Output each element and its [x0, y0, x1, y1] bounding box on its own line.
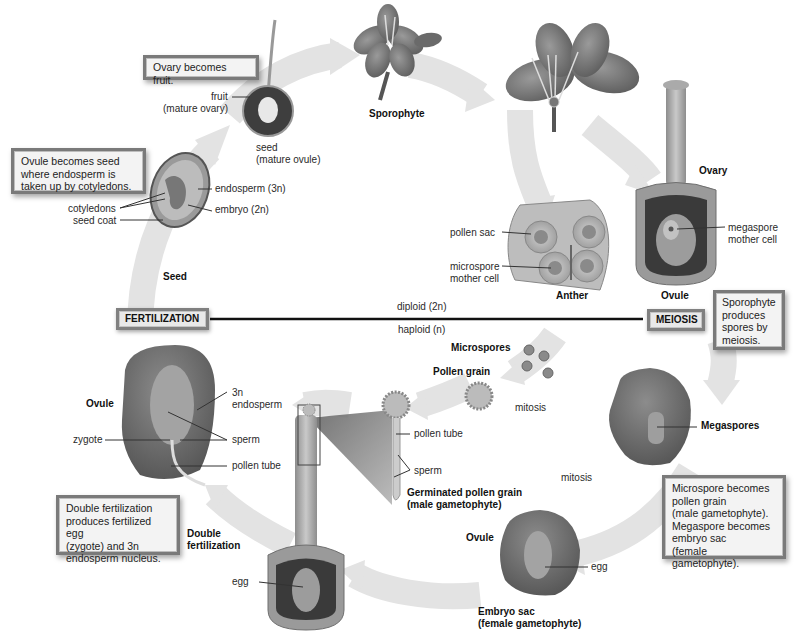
label-ovule-top: Ovule [661, 290, 689, 302]
label-ovary: Ovary [699, 165, 727, 177]
label-mitosis-1: mitosis [515, 402, 546, 414]
label-pollen-sac: pollen sac [450, 227, 495, 239]
ovary-illustration [636, 80, 716, 285]
pollen-grain-illustration [466, 383, 492, 409]
callout-line: taken up by cotyledons. [21, 180, 136, 193]
callout-line: Microspore becomes [672, 482, 776, 495]
label-anther: Anther [556, 290, 588, 302]
callout-line: (female gametophyte). [672, 545, 776, 570]
label-3n-endosperm: endosperm [232, 399, 282, 411]
label-microspores: Microspores [451, 342, 510, 354]
label-microspore-mother-cell-2: mother cell [450, 273, 499, 285]
callout-sporophyte-meiosis: Sporophyte produces spores by meiosis. [713, 290, 785, 350]
anther-illustration [508, 200, 609, 290]
label-embryo-sac-1: Embryo sac [478, 606, 535, 618]
callout-line: produces fertilized egg [66, 515, 170, 540]
callout-line: (zygote) and 3n [66, 540, 170, 553]
label-mature-ovule: (mature ovule) [256, 154, 320, 166]
label-pollen-tube-left: pollen tube [232, 460, 281, 472]
label-seed-coat: seed coat [73, 215, 116, 227]
callout-ovule-becomes-seed: Ovule becomes seed where endosperm is ta… [11, 148, 146, 194]
embryo-sac-ovule-illustration [500, 510, 580, 595]
label-embryo-2n: embryo (2n) [215, 204, 269, 216]
label-sperm-left: sperm [232, 434, 260, 446]
callout-line: produces [722, 309, 776, 322]
label-endosperm-3n: endosperm (3n) [215, 183, 286, 195]
diploid-label: diploid (2n) [397, 301, 446, 313]
label-sporophyte: Sporophyte [369, 108, 425, 120]
callout-line: Megaspore becomes [672, 520, 776, 533]
label-microspore-mother-cell-1: microspore [450, 261, 499, 273]
stage-fertilization: FERTILIZATION [116, 308, 209, 330]
callout-line: embryo sac [672, 532, 776, 545]
label-3n: 3n [232, 387, 243, 399]
label-sperm-right: sperm [414, 465, 442, 477]
label-mitosis-2: mitosis [561, 472, 592, 484]
label-ovule-bottom: Ovule [466, 532, 494, 544]
label-ovule-left: Ovule [86, 398, 114, 410]
label-pollen-tube-right: pollen tube [414, 428, 463, 440]
life-cycle-diagram: Ovary becomes fruit. Ovule becomes seed … [0, 0, 799, 637]
label-megaspore-mother-cell-1: megaspore [728, 222, 778, 234]
callout-line: endosperm nucleus. [66, 552, 170, 565]
callout-line: Ovule becomes seed [21, 155, 136, 168]
label-cotyledons: cotyledons [68, 203, 116, 215]
callout-line: meiosis. [722, 334, 776, 347]
callout-line: (male gametophyte). [672, 507, 776, 520]
label-fruit: fruit [211, 91, 228, 103]
fertilized-ovule-illustration [122, 345, 215, 485]
label-germinated-pollen-1: Germinated pollen grain [407, 487, 522, 499]
callout-double-fertilization: Double fertilization produces fertilized… [56, 495, 180, 555]
label-seed: seed [256, 142, 278, 154]
callout-line: spores by [722, 321, 776, 334]
megaspores-ovule-illustration [609, 368, 691, 465]
label-zygote: zygote [73, 434, 102, 446]
label-pollen-grain: Pollen grain [433, 366, 490, 378]
label-double-1: Double [187, 528, 221, 540]
label-egg-left: egg [232, 576, 249, 588]
callout-line: Double fertilization [66, 502, 170, 515]
callout-line: pollen grain [672, 495, 776, 508]
label-mature-ovary: (mature ovary) [163, 103, 228, 115]
sporophyte-flower-illustration [349, 4, 443, 100]
label-double-2: fertilization [187, 540, 240, 552]
label-seed: Seed [163, 271, 187, 283]
label-germinated-pollen-2: (male gametophyte) [407, 499, 501, 511]
callout-microspore-megaspore: Microspore becomes pollen grain (male ga… [662, 475, 786, 559]
label-egg-bottom: egg [591, 561, 608, 573]
callout-line: Sporophyte [722, 296, 776, 309]
callout-line: where endosperm is [21, 168, 136, 181]
label-megaspores: Megaspores [701, 420, 759, 432]
callout-text: Ovary becomes fruit. [153, 61, 249, 86]
callout-ovary-becomes-fruit: Ovary becomes fruit. [143, 55, 259, 80]
label-megaspore-mother-cell-2: mother cell [728, 234, 777, 246]
haploid-label: haploid (n) [398, 324, 445, 336]
label-embryo-sac-2: (female gametophyte) [478, 618, 581, 630]
stage-meiosis: MEIOSIS [647, 309, 705, 331]
